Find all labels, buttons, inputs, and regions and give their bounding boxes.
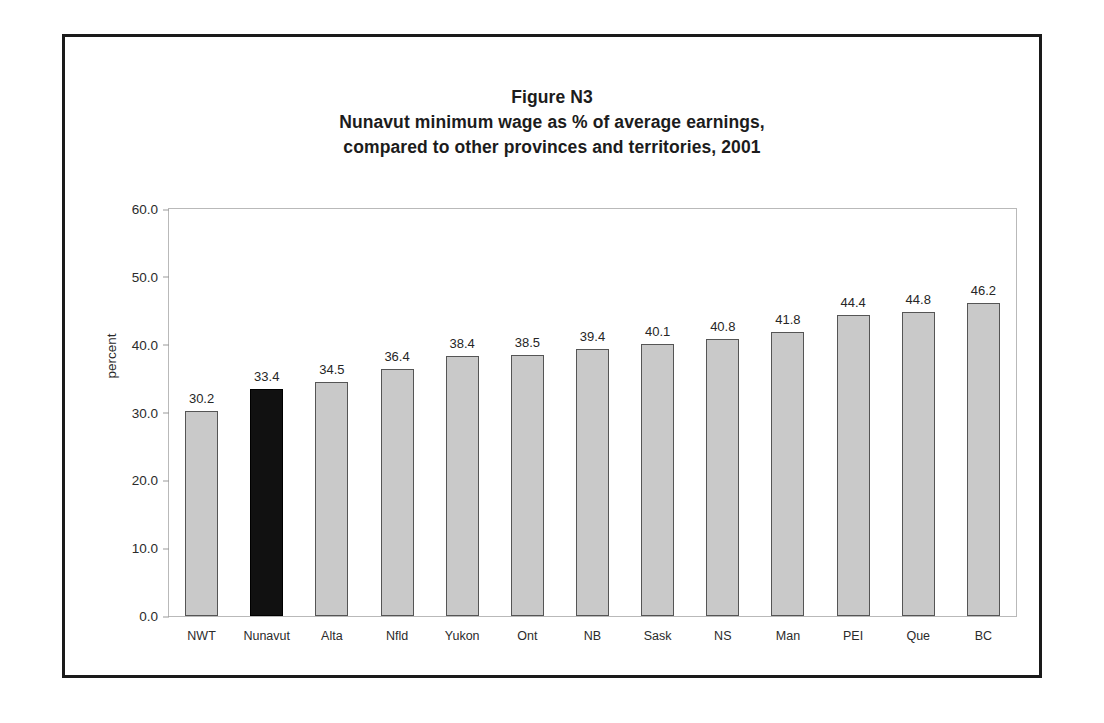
bar-ns — [706, 339, 739, 616]
bar-group: 46.2BC — [967, 209, 1000, 616]
bar-pei — [837, 315, 870, 616]
y-tick-label: 10.0 — [132, 541, 169, 556]
x-tick-label-que: Que — [906, 629, 930, 643]
bar-value-label: 38.4 — [450, 336, 475, 351]
bar-man — [771, 332, 804, 616]
x-tick-label-pei: PEI — [843, 629, 863, 643]
y-tick-label: 0.0 — [139, 609, 169, 624]
title-line-2: Nunavut minimum wage as % of average ear… — [65, 110, 1039, 135]
bar-group: 38.5Ont — [511, 209, 544, 616]
x-tick-label-ont: Ont — [517, 629, 537, 643]
bar-group: 39.4NB — [576, 209, 609, 616]
y-tick-label: 40.0 — [132, 337, 169, 352]
bar-group: 30.2NWT — [185, 209, 218, 616]
chart-title: Figure N3 Nunavut minimum wage as % of a… — [65, 85, 1039, 160]
x-tick-label-yukon: Yukon — [445, 629, 480, 643]
plot-area: 60.050.040.030.020.010.00.0 30.2NWT33.4N… — [168, 208, 1017, 617]
x-tick-label-sask: Sask — [644, 629, 672, 643]
x-tick-label-ns: NS — [714, 629, 731, 643]
bar-value-label: 44.4 — [840, 295, 865, 310]
x-tick-label-nb: NB — [584, 629, 601, 643]
x-tick-label-nfld: Nfld — [386, 629, 408, 643]
y-tick-label: 60.0 — [132, 202, 169, 217]
y-tick-label: 30.0 — [132, 405, 169, 420]
bar-nb — [576, 349, 609, 616]
bar-value-label: 41.8 — [775, 312, 800, 327]
bar-ont — [511, 355, 544, 616]
bar-group: 34.5Alta — [315, 209, 348, 616]
bar-value-label: 46.2 — [971, 283, 996, 298]
bar-value-label: 40.1 — [645, 324, 670, 339]
bar-value-label: 36.4 — [384, 349, 409, 364]
y-tick-label: 20.0 — [132, 473, 169, 488]
x-tick-label-alta: Alta — [321, 629, 343, 643]
bar-value-label: 39.4 — [580, 329, 605, 344]
bar-value-label: 33.4 — [254, 369, 279, 384]
bar-yukon — [446, 356, 479, 616]
bar-nunavut — [250, 389, 283, 616]
bar-group: 40.1Sask — [641, 209, 674, 616]
x-tick-label-nwt: NWT — [187, 629, 215, 643]
bar-value-label: 44.8 — [906, 292, 931, 307]
bar-group: 38.4Yukon — [446, 209, 479, 616]
x-tick-label-bc: BC — [975, 629, 992, 643]
title-line-1: Figure N3 — [65, 85, 1039, 110]
bar-nfld — [381, 369, 414, 616]
x-tick-label-man: Man — [776, 629, 800, 643]
y-axis-label: percent — [104, 333, 119, 378]
bar-group: 44.4PEI — [837, 209, 870, 616]
bar-group: 36.4Nfld — [381, 209, 414, 616]
bar-value-label: 34.5 — [319, 362, 344, 377]
bar-nwt — [185, 411, 218, 616]
bar-alta — [315, 382, 348, 616]
bar-group: 41.8Man — [771, 209, 804, 616]
title-line-3: compared to other provinces and territor… — [65, 135, 1039, 160]
bar-value-label: 40.8 — [710, 319, 735, 334]
figure-frame: Figure N3 Nunavut minimum wage as % of a… — [62, 34, 1042, 678]
bar-value-label: 38.5 — [515, 335, 540, 350]
bar-value-label: 30.2 — [189, 391, 214, 406]
bar-sask — [641, 344, 674, 616]
bar-group: 40.8NS — [706, 209, 739, 616]
bar-group: 33.4Nunavut — [250, 209, 283, 616]
bar-group: 44.8Que — [902, 209, 935, 616]
bar-que — [902, 312, 935, 616]
x-tick-label-nunavut: Nunavut — [243, 629, 290, 643]
bar-bc — [967, 303, 1000, 616]
y-tick-label: 50.0 — [132, 269, 169, 284]
